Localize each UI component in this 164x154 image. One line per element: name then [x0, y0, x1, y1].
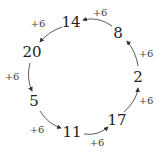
- edge-label-14-20: +6: [31, 18, 46, 29]
- edge-label-5-11: +6: [30, 124, 45, 135]
- edge-20-5: [28, 63, 32, 91]
- edge-label-2-8: +6: [139, 48, 154, 59]
- cycle-diagram: 14 20 5 11 17 2 8 +6 +6 +6 +6 +6 +6 +6: [0, 0, 164, 154]
- edge-label-20-5: +6: [5, 71, 20, 82]
- edge-17-2: [124, 88, 138, 112]
- edge-2-8: [127, 41, 138, 66]
- node-5: 5: [29, 92, 39, 110]
- edge-label-11-17: +6: [90, 137, 105, 148]
- node-17: 17: [107, 111, 126, 129]
- edge-label-17-2: +6: [139, 95, 154, 106]
- node-14: 14: [61, 13, 80, 31]
- node-11: 11: [62, 123, 81, 141]
- edge-label-8-14: +6: [93, 7, 108, 18]
- edge-14-20: [40, 27, 62, 42]
- edge-8-14: [83, 19, 112, 26]
- node-2: 2: [133, 68, 143, 86]
- edge-11-17: [84, 127, 108, 134]
- node-20: 20: [22, 43, 41, 61]
- node-8: 8: [113, 24, 123, 42]
